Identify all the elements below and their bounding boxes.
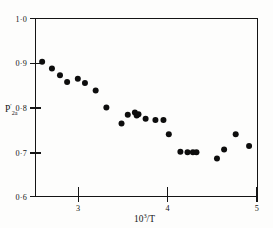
- data-point: [135, 111, 141, 117]
- x-axis-tick-labels: 3 4 5: [76, 204, 259, 213]
- x-axis-ticks: [78, 187, 257, 202]
- data-point: [152, 117, 158, 123]
- data-point: [214, 156, 220, 162]
- data-point: [64, 79, 70, 85]
- plot-frame: [35, 18, 258, 197]
- x-tick-label-5: 5: [255, 204, 259, 213]
- data-point: [166, 131, 172, 137]
- y-axis-title-subscript: 2a: [12, 109, 18, 116]
- data-point: [193, 149, 199, 155]
- data-point: [57, 72, 63, 78]
- data-point: [125, 112, 131, 118]
- data-point: [39, 59, 45, 65]
- svg-text:103/T: 103/T: [134, 212, 155, 224]
- data-point: [185, 149, 191, 155]
- data-point: [119, 121, 125, 127]
- data-point: [49, 66, 55, 72]
- data-point: [160, 117, 166, 123]
- x-tick-label-3: 3: [76, 204, 80, 213]
- y-tick-label-1-0: 1·0: [15, 15, 27, 24]
- y-tick-label-0-7: 0·7: [15, 149, 27, 158]
- x-tick-label-4: 4: [165, 204, 169, 213]
- data-point: [221, 147, 227, 153]
- data-points-layer: [39, 59, 252, 162]
- figure-container: 1·0 0·9 0·8 0·7 0·6 3 4 5 103/T P′2a: [0, 0, 273, 228]
- x-axis-title-mantissa: 10: [134, 214, 144, 224]
- y-tick-label-0-6: 0·6: [15, 193, 27, 202]
- data-point: [233, 131, 239, 137]
- scatter-plot: 1·0 0·9 0·8 0·7 0·6 3 4 5 103/T P′2a: [0, 0, 273, 228]
- data-point: [75, 76, 81, 82]
- x-axis-title: 103/T: [134, 212, 155, 224]
- data-point: [93, 88, 99, 94]
- data-point: [177, 149, 183, 155]
- data-point: [143, 116, 149, 122]
- data-point: [82, 80, 88, 86]
- y-axis-title-prime: ′: [10, 102, 12, 109]
- x-axis-title-divider: /T: [147, 214, 156, 224]
- data-point: [246, 143, 252, 149]
- data-point: [103, 105, 109, 111]
- y-tick-label-0-9: 0·9: [15, 59, 27, 68]
